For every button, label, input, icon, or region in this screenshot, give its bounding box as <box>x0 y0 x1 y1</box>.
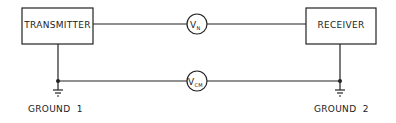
ground-1-label: GROUND 1 <box>28 104 83 114</box>
vcm-label: VCM <box>188 77 203 88</box>
vn-label: VN <box>190 20 201 31</box>
circuit-diagram: TRANSMITTER RECEIVER VN VCM GROUND 1 GRO… <box>0 0 396 123</box>
junction-dot-1 <box>56 79 60 83</box>
junction-dot-2 <box>338 79 342 83</box>
receiver-label: RECEIVER <box>317 20 364 30</box>
ground-2-label: GROUND 2 <box>314 104 369 114</box>
ground-2-icon <box>335 90 345 96</box>
ground-1-icon <box>53 90 63 96</box>
transmitter-label: TRANSMITTER <box>23 20 91 30</box>
